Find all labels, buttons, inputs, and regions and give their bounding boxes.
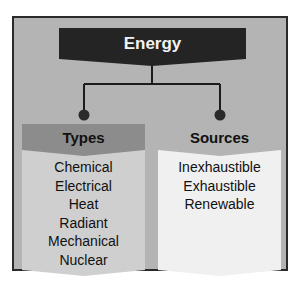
connector-dot-icon: [79, 110, 90, 121]
connector-dot-icon: [215, 110, 226, 121]
connector-dots: [14, 18, 286, 269]
diagram-frame: Energy Types Chemical Electrical Heat Ra…: [12, 16, 288, 271]
